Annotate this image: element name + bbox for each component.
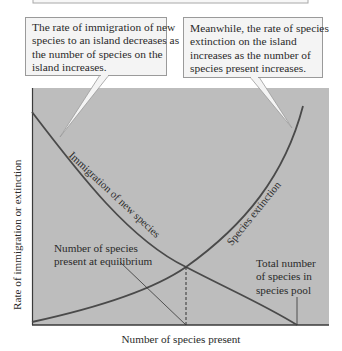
island-biogeography-diagram: The rate of immigration of new species t… [0, 0, 342, 351]
callout-line: island increases. [32, 61, 179, 74]
callout-line: species to an island decreases as [32, 34, 179, 47]
annotation-line: present at equilibrium [54, 255, 152, 268]
partial-callout-box [33, 0, 308, 3]
callout-line: The rate of immigration of new [32, 21, 179, 34]
annotation-line: Number of species [54, 242, 152, 255]
annotation-line: Total number [256, 257, 316, 270]
x-axis-label: Number of species present [0, 333, 342, 346]
callout-line: species present increases. [190, 62, 329, 75]
callout-line: increases as the number of [190, 49, 329, 62]
callout-line: the number of species on the [32, 48, 179, 61]
extinction-callout-text: Meanwhile, the rate of species extinctio… [190, 22, 329, 76]
callout-line: Meanwhile, the rate of species [190, 22, 329, 35]
immigration-callout-text: The rate of immigration of new species t… [32, 21, 179, 75]
annotation-line: of species in [256, 270, 316, 283]
equilibrium-annotation: Number of species present at equilibrium [54, 242, 152, 269]
annotation-line: species pool [256, 284, 316, 297]
y-axis-label: Rate of immigration or extinction [11, 160, 24, 310]
species-pool-annotation: Total number of species in species pool [256, 257, 316, 297]
callout-line: extinction on the island [190, 35, 329, 48]
